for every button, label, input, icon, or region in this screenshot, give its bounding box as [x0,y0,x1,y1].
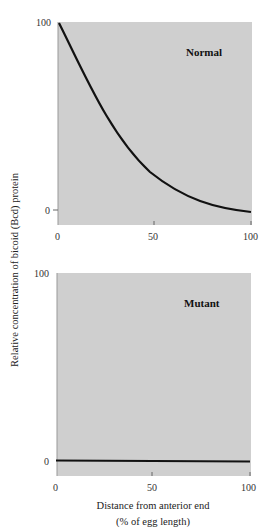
normal-chart: Normal 100 0 0 50 100 [36,17,258,242]
y-axis-label: Relative concentration of bicoid (Bcd) p… [9,172,21,367]
mutant-curve [56,461,250,462]
mutant-x-tick-label-0: 0 [53,482,58,493]
normal-x-tick-label-0: 0 [55,231,60,242]
mutant-panel-label: Mutant [184,297,220,309]
mutant-plot-area [57,273,251,476]
x-axis-label-line1: Distance from anterior end [97,500,211,511]
normal-x-tick-label-50: 50 [148,231,158,242]
normal-panel-label: Normal [186,46,222,58]
figure: Normal 100 0 0 50 100 Mutant 100 0 0 50 … [0,0,270,529]
mutant-y-tick-label-0: 0 [44,456,49,467]
mutant-x-tick-label-100: 100 [241,482,256,493]
mutant-y-tick-label-100: 100 [34,268,49,279]
mutant-x-tick-label-50: 50 [147,482,157,493]
normal-plot-area [58,22,252,225]
mutant-chart: Mutant 100 0 0 50 100 [34,268,256,493]
normal-y-tick-label-100: 100 [36,17,51,28]
x-axis-label-line2: (% of egg length) [116,516,190,528]
normal-y-tick-label-0: 0 [45,205,50,216]
normal-x-tick-label-100: 100 [243,231,258,242]
